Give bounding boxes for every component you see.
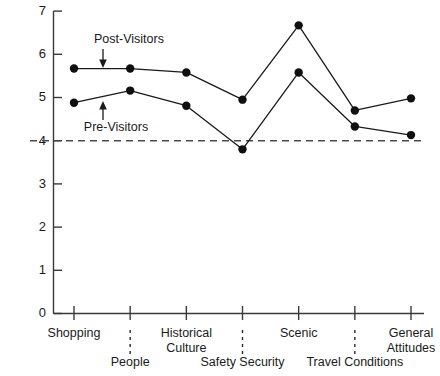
x-label-0: Shopping bbox=[48, 326, 101, 340]
x-label-5: Travel Conditions bbox=[306, 355, 403, 369]
x-axis-category-labels: ShoppingPeopleHistoricalCultureSafety Se… bbox=[48, 326, 436, 369]
x-label-4: Scenic bbox=[280, 326, 318, 340]
post-visitors-annotation-label: Post-Visitors bbox=[94, 32, 164, 46]
y-tick-label-1: 1 bbox=[39, 262, 46, 277]
y-axis-ticks bbox=[54, 11, 63, 313]
data-point bbox=[126, 64, 134, 72]
data-point bbox=[238, 95, 246, 103]
x-label-3: Safety Security bbox=[200, 355, 285, 369]
post-visitors-arrow-head bbox=[99, 60, 107, 69]
data-point bbox=[294, 68, 302, 76]
annotation-post-visitors: Post-Visitors bbox=[94, 32, 164, 68]
y-tick-label-5: 5 bbox=[39, 89, 46, 104]
y-tick-label-3: 3 bbox=[39, 176, 46, 191]
data-point bbox=[407, 131, 415, 139]
x-label-6: Attitudes bbox=[387, 341, 436, 355]
x-label-6: General bbox=[389, 326, 433, 340]
data-point bbox=[126, 86, 134, 94]
data-point bbox=[182, 102, 190, 110]
data-point bbox=[238, 145, 246, 153]
y-tick-label-6: 6 bbox=[39, 46, 46, 61]
data-point bbox=[70, 64, 78, 72]
y-axis-tick-labels: 01234567 bbox=[39, 3, 46, 320]
x-label-2: Culture bbox=[166, 341, 206, 355]
data-point bbox=[182, 68, 190, 76]
pre-visitors-annotation-label: Pre-Visitors bbox=[84, 120, 148, 134]
x-axis-group bbox=[54, 306, 425, 320]
y-tick-label-2: 2 bbox=[39, 219, 46, 234]
series-line-pre-visitors bbox=[74, 72, 411, 149]
x-label-2: Historical bbox=[161, 326, 212, 340]
data-point bbox=[351, 106, 359, 114]
line-chart-figure: 01234567 ShoppingPeopleHistoricalCulture… bbox=[0, 0, 440, 376]
annotation-pre-visitors: Pre-Visitors bbox=[84, 101, 148, 134]
x-label-1: People bbox=[111, 355, 150, 369]
y-tick-label-0: 0 bbox=[39, 305, 46, 320]
chart-canvas: 01234567 ShoppingPeopleHistoricalCulture… bbox=[0, 0, 440, 376]
data-point bbox=[351, 122, 359, 130]
y-tick-label-7: 7 bbox=[39, 3, 46, 18]
pre-visitors-arrow-head bbox=[99, 101, 107, 110]
data-point bbox=[294, 21, 302, 29]
y-axis-group: 01234567 bbox=[39, 3, 62, 320]
data-point bbox=[70, 98, 78, 106]
data-point bbox=[407, 94, 415, 102]
